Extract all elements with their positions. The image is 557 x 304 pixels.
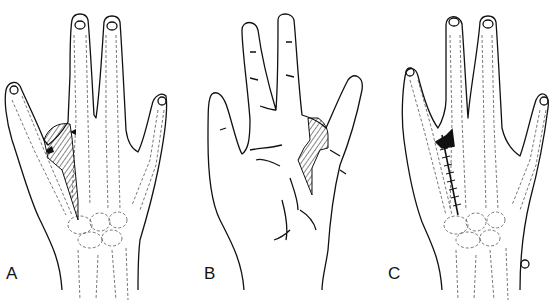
suture-line	[436, 130, 461, 215]
panel-a: A	[0, 0, 190, 304]
panel-label-b: B	[204, 264, 215, 284]
panel-c: C	[380, 0, 557, 304]
dorsal-hand-skeleton-c	[380, 0, 557, 304]
flap-hatched	[298, 118, 328, 195]
panel-label-c: C	[388, 264, 400, 284]
panel-b: B	[190, 0, 380, 304]
panel-label-a: A	[6, 264, 17, 284]
palmar-hand-b	[190, 0, 380, 304]
dorsal-hand-skeleton-a	[0, 0, 190, 304]
